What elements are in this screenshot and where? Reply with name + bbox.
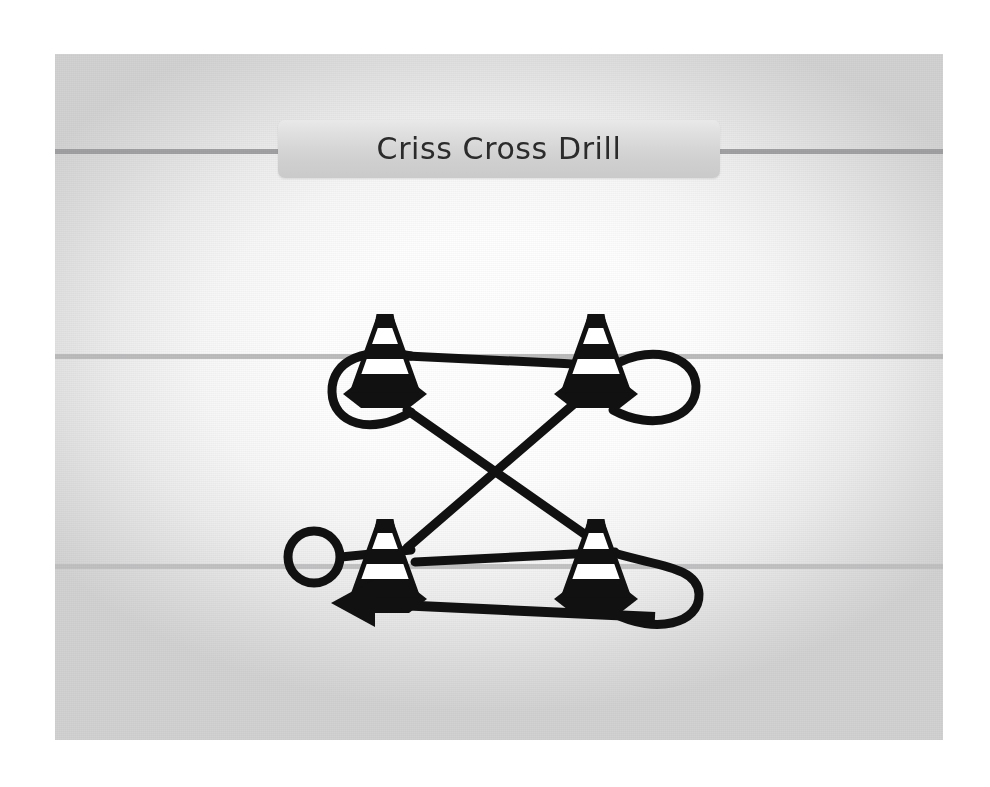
path-diagonal-down <box>407 410 613 554</box>
finish-arrow-icon <box>331 579 375 627</box>
drill-slide: Criss Cross Drill <box>55 54 943 740</box>
cone-bottom-right <box>554 519 638 613</box>
start-circle-marker <box>288 531 340 583</box>
screenshot-page: Criss Cross Drill <box>0 0 990 787</box>
drill-diagram <box>55 54 943 740</box>
